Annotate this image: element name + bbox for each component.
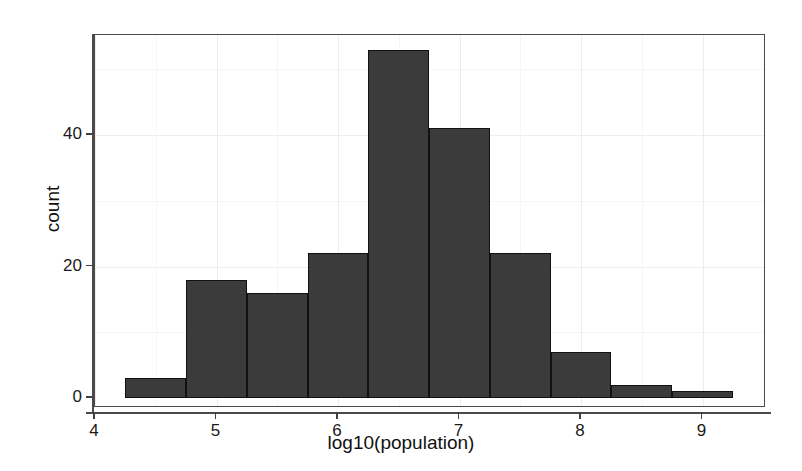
histogram-bar [551, 352, 612, 398]
histogram-bar [308, 253, 369, 398]
histogram-bar [611, 385, 672, 398]
gridline-major-x [581, 35, 582, 406]
x-axis-line [86, 412, 771, 414]
y-tick-mark [86, 133, 93, 135]
histogram-bar [672, 391, 733, 398]
gridline-minor-y [95, 69, 764, 70]
x-tick-mark [458, 412, 460, 419]
y-axis-line [92, 34, 94, 414]
x-tick-mark [579, 412, 581, 419]
histogram-bar [490, 253, 551, 398]
y-tick-label: 20 [0, 257, 82, 274]
y-tick-label: 40 [0, 125, 82, 142]
histogram-bar [125, 378, 186, 398]
x-tick-mark [701, 412, 703, 419]
gridline-major-x [95, 35, 96, 406]
gridline-minor-x [156, 35, 157, 406]
gridline-minor-x [642, 35, 643, 406]
histogram-screenshot: 02040 456789 count log10(population) [0, 0, 802, 471]
x-tick-mark [336, 412, 338, 419]
histogram-bar [368, 50, 429, 398]
y-axis-title: count [42, 149, 64, 269]
histogram-bar [186, 280, 247, 398]
y-tick-label: 0 [0, 388, 82, 405]
x-tick-mark [215, 412, 217, 419]
x-tick-mark [93, 412, 95, 419]
histogram-bar [247, 293, 308, 398]
x-axis-title: log10(population) [0, 432, 802, 454]
y-tick-mark [86, 396, 93, 398]
plot-panel [94, 34, 765, 407]
gridline-major-x [703, 35, 704, 406]
y-tick-mark [86, 265, 93, 267]
histogram-bar [429, 128, 490, 398]
